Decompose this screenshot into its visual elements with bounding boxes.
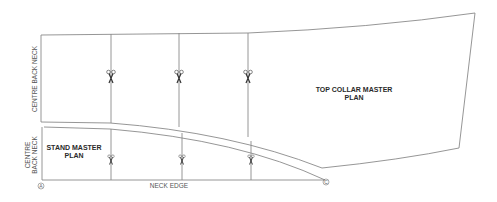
centre-back-neck-stand-label-line2: BACK NECK — [31, 136, 38, 174]
top-collar-right-edge — [459, 13, 475, 148]
top-collar-label-line1: TOP COLLAR MASTER — [316, 86, 393, 93]
stand-top-edge — [44, 127, 325, 180]
centre-back-neck-stand-label-line1: CENTRE — [24, 141, 31, 168]
point-c-label: C — [324, 179, 328, 185]
stand-label-line1: STAND MASTER — [46, 144, 101, 151]
stand-piece — [42, 127, 325, 180]
top-collar-style-edge — [322, 148, 459, 168]
neck-edge-label: NECK EDGE — [150, 182, 189, 189]
top-collar-label-line2: PLAN — [344, 94, 363, 101]
point-a-marker: A — [38, 183, 44, 189]
top-collar-piece — [41, 13, 475, 168]
stand-label-line2: PLAN — [64, 152, 83, 159]
collar-pattern-diagram: TOP COLLAR MASTER PLAN STAND MASTER PLAN… — [0, 0, 497, 202]
point-c-marker: C — [323, 179, 329, 185]
centre-back-neck-top-label: CENTRE BACK NECK — [31, 45, 38, 112]
top-collar-top-edge — [41, 13, 475, 35]
